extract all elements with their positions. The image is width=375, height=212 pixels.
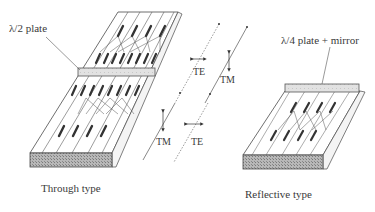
quarter-wave-plate-mirror-label: λ/4 plate + mirror [281, 35, 359, 46]
lower-te-ray [174, 103, 208, 162]
half-wave-plate-leader [46, 37, 80, 70]
half-wave-plate [78, 68, 155, 76]
reflective-chip-front-face [243, 155, 323, 169]
upper-te-label: TE [193, 67, 205, 77]
lower-tm-ray [143, 103, 175, 160]
diagram-canvas [0, 0, 375, 212]
half-wave-plate-label: λ/2 plate [9, 23, 47, 34]
upper-tm-label: TM [220, 75, 235, 85]
quarter-wave-plate-leader [322, 47, 330, 84]
lower-tm-label: TM [156, 137, 171, 147]
quarter-wave-plate-mirror [285, 84, 359, 92]
through-type-caption: Through type [41, 183, 101, 194]
upper-te-ray [175, 24, 219, 103]
reflective-type-chip [243, 47, 365, 169]
reflective-type-caption: Reflective type [245, 189, 312, 200]
chip-front-face [30, 153, 112, 167]
lower-te-label: TE [191, 137, 203, 147]
